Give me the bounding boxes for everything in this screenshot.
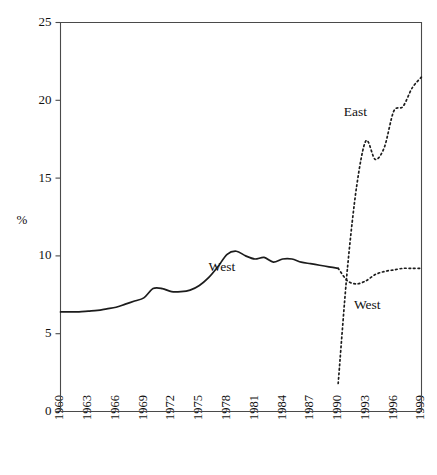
annotation-label-east-1: East xyxy=(344,104,367,119)
series-line-west-1 xyxy=(338,268,421,284)
x-tick-label: 1996 xyxy=(386,395,400,420)
annotation-label-west-0: West xyxy=(209,259,236,274)
y-axis: 0510152025% xyxy=(17,14,61,418)
plot-frame xyxy=(61,23,422,412)
chart-canvas: 0510152025% 1960196319661969197219751978… xyxy=(0,0,437,475)
x-tick-label: 1972 xyxy=(163,395,177,420)
x-tick-label: 1969 xyxy=(136,395,150,420)
x-tick-label: 1999 xyxy=(413,395,427,420)
y-tick-label: 25 xyxy=(39,14,52,29)
data-series-group xyxy=(61,77,422,384)
x-tick-label: 1984 xyxy=(275,394,289,420)
x-tick-label: 1990 xyxy=(330,395,344,420)
x-tick-label: 1978 xyxy=(219,395,233,420)
y-tick-label: 5 xyxy=(45,325,52,340)
plot-border xyxy=(61,23,422,412)
y-tick-label: 15 xyxy=(39,170,52,185)
x-tick-label: 1960 xyxy=(52,395,66,420)
x-tick-label: 1993 xyxy=(358,395,372,420)
series-line-west-0 xyxy=(61,251,339,312)
unemployment-rate-chart: 0510152025% 1960196319661969197219751978… xyxy=(0,0,437,475)
x-tick-label: 1981 xyxy=(247,395,261,420)
series-line-east-2 xyxy=(338,77,421,384)
y-tick-label: 0 xyxy=(45,403,52,418)
x-tick-label: 1966 xyxy=(108,395,122,420)
x-tick-label: 1963 xyxy=(80,395,94,420)
x-axis: 1960196319661969197219751978198119841987… xyxy=(52,394,427,420)
y-tick-label: 10 xyxy=(39,247,52,262)
series-annotations: WestEastWest xyxy=(209,104,381,312)
x-tick-label: 1975 xyxy=(191,395,205,420)
y-axis-title: % xyxy=(17,212,28,227)
annotation-label-west-2: West xyxy=(354,297,381,312)
x-tick-label: 1987 xyxy=(302,395,316,420)
y-tick-label: 20 xyxy=(39,92,52,107)
